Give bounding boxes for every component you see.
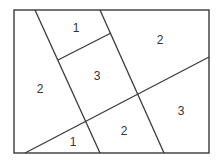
region-label: 1 (70, 135, 77, 149)
region-label: 1 (73, 21, 80, 35)
region-label: 2 (121, 124, 128, 138)
region-diagram: 1223321 (0, 0, 219, 161)
region-label: 3 (178, 104, 185, 118)
region-label: 3 (94, 69, 101, 83)
region-label: 2 (37, 82, 44, 96)
region-label: 2 (157, 33, 164, 47)
